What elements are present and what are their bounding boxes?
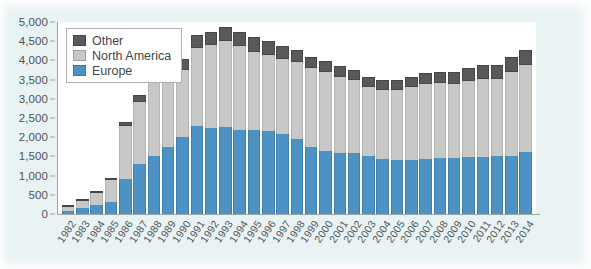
bar-1991 — [191, 22, 204, 214]
bar-segment-europe — [248, 130, 261, 214]
x-tick-1989: 1989 — [162, 216, 175, 266]
bar-1999 — [305, 22, 318, 214]
bar-segment-other — [376, 80, 389, 90]
legend-item-other: Other — [73, 33, 171, 48]
x-tick-1983: 1983 — [76, 216, 89, 266]
y-tick-mark — [50, 22, 55, 23]
y-tick-mark — [50, 41, 55, 42]
y-tick-label: 2,000 — [19, 131, 48, 143]
bar-segment-europe — [362, 156, 375, 214]
bar-segment-north-america — [90, 193, 103, 206]
bar-segment-north-america — [405, 87, 418, 160]
x-tick-2013: 2013 — [505, 216, 518, 266]
bar-segment-europe — [291, 139, 304, 214]
y-tick-label: 4,500 — [19, 35, 48, 47]
bar-segment-north-america — [319, 72, 332, 151]
bar-segment-europe — [405, 160, 418, 214]
bar-segment-other — [319, 61, 332, 72]
bar-segment-north-america — [262, 55, 275, 132]
bar-segment-europe — [119, 179, 132, 214]
bar-segment-other — [434, 72, 447, 84]
bar-segment-europe — [105, 202, 118, 214]
bar-segment-north-america — [477, 79, 490, 157]
bar-segment-north-america — [491, 79, 504, 157]
bar-segment-europe — [90, 205, 103, 214]
bar-1994 — [233, 22, 246, 214]
bar-segment-europe — [391, 160, 404, 214]
bar-segment-north-america — [334, 77, 347, 153]
bar-segment-other — [477, 65, 490, 79]
bar-1992 — [205, 22, 218, 214]
bar-segment-europe — [334, 153, 347, 214]
bar-segment-europe — [491, 156, 504, 214]
bar-1996 — [262, 22, 275, 214]
bar-segment-other — [391, 80, 404, 90]
y-tick-mark — [50, 137, 55, 138]
bar-segment-other — [305, 57, 318, 69]
bar-2002 — [348, 22, 361, 214]
bar-segment-north-america — [276, 59, 289, 134]
bar-segment-north-america — [362, 87, 375, 157]
bar-segment-north-america — [391, 90, 404, 160]
bar-segment-north-america — [76, 201, 89, 208]
y-tick-mark — [50, 98, 55, 99]
bar-2012 — [491, 22, 504, 214]
bar-segment-north-america — [434, 83, 447, 158]
chart-legend: Other North America Europe — [66, 28, 182, 83]
y-tick-label: 3,000 — [19, 93, 48, 105]
bar-segment-europe — [176, 137, 189, 214]
bar-segment-other — [448, 72, 461, 84]
bar-segment-north-america — [462, 81, 475, 157]
bar-segment-north-america — [248, 52, 261, 131]
legend-label-europe: Europe — [92, 64, 132, 78]
bar-segment-europe — [276, 134, 289, 214]
bar-segment-north-america — [205, 45, 218, 128]
legend-item-north-america: North America — [73, 48, 171, 63]
x-tick-1993: 1993 — [219, 216, 232, 266]
bar-2011 — [477, 22, 490, 214]
bar-segment-europe — [233, 130, 246, 214]
bar-1993 — [219, 22, 232, 214]
bar-segment-europe — [376, 159, 389, 214]
bar-segment-north-america — [148, 83, 161, 156]
x-axis-labels: 1982198319841985198619871988198919901991… — [58, 216, 536, 266]
chart-figure: 05001,0001,5002,0002,5003,0003,5004,0004… — [0, 0, 591, 269]
bar-segment-north-america — [305, 68, 318, 147]
y-tick-mark — [50, 156, 55, 157]
y-tick-label: 1,000 — [19, 170, 48, 182]
x-tick-2000: 2000 — [319, 216, 332, 266]
x-axis-line — [57, 214, 540, 215]
bar-segment-north-america — [505, 72, 518, 156]
y-tick-label: 3,500 — [19, 74, 48, 86]
bar-2007 — [419, 22, 432, 214]
x-tick-2014: 2014 — [519, 216, 532, 266]
bar-2009 — [448, 22, 461, 214]
bar-segment-europe — [319, 151, 332, 214]
bar-segment-other — [405, 77, 418, 88]
legend-item-europe: Europe — [73, 63, 171, 78]
bar-1995 — [248, 22, 261, 214]
bar-segment-other — [205, 32, 218, 45]
bar-2013 — [505, 22, 518, 214]
y-tick-mark — [50, 79, 55, 80]
bar-2004 — [376, 22, 389, 214]
bar-segment-other — [262, 41, 275, 55]
bar-segment-europe — [419, 159, 432, 214]
bar-segment-other — [334, 66, 347, 77]
bar-1997 — [276, 22, 289, 214]
bar-2003 — [362, 22, 375, 214]
bar-segment-europe — [148, 156, 161, 214]
x-tick-1986: 1986 — [119, 216, 132, 266]
legend-swatch-other-icon — [73, 35, 86, 46]
bar-1998 — [291, 22, 304, 214]
bar-segment-europe — [448, 158, 461, 214]
bar-segment-other — [248, 37, 261, 51]
y-tick-mark — [50, 118, 55, 119]
x-tick-2010: 2010 — [462, 216, 475, 266]
bar-segment-other — [419, 73, 432, 84]
bar-segment-europe — [305, 147, 318, 214]
legend-swatch-europe-icon — [73, 65, 86, 76]
y-tick-label: 4,000 — [19, 54, 48, 66]
y-tick-label: 2,500 — [19, 112, 48, 124]
bar-segment-north-america — [105, 180, 118, 202]
